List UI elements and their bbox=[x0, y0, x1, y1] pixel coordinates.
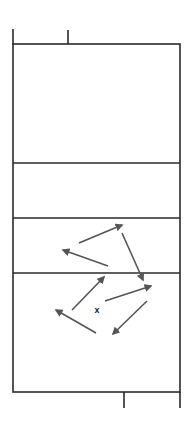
court-diagram: x bbox=[0, 0, 194, 428]
movement-arrows bbox=[56, 225, 151, 334]
movement-arrow-icon bbox=[79, 225, 122, 243]
movement-arrow-icon bbox=[56, 310, 96, 333]
court-outline bbox=[13, 29, 180, 408]
movement-arrow-icon bbox=[105, 286, 151, 301]
player-marker: x bbox=[94, 305, 99, 315]
movement-arrow-icon bbox=[63, 250, 108, 266]
movement-arrow-icon bbox=[113, 301, 147, 334]
